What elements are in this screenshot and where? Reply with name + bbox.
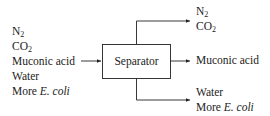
input-muconic-acid: Muconic acid xyxy=(12,54,75,69)
top-output-arrow xyxy=(137,21,191,45)
output-n2: N2 xyxy=(196,4,216,19)
input-n2: N2 xyxy=(12,24,75,39)
input-co2: CO2 xyxy=(12,39,75,54)
bottom-output-label: Water More E. coli xyxy=(196,85,254,115)
input-water: Water xyxy=(12,69,75,84)
middle-output-label: Muconic acid xyxy=(196,53,259,68)
bottom-output-arrow xyxy=(137,79,191,101)
output-co2: CO2 xyxy=(196,19,216,34)
output-water: Water xyxy=(196,85,254,100)
separator-label: Separator xyxy=(102,44,171,78)
input-stream-label: N2 CO2 Muconic acid Water More E. coli xyxy=(12,24,75,99)
output-more-ecoli: More E. coli xyxy=(196,100,254,115)
top-output-label: N2 CO2 xyxy=(196,4,216,34)
input-more-ecoli: More E. coli xyxy=(12,84,75,99)
